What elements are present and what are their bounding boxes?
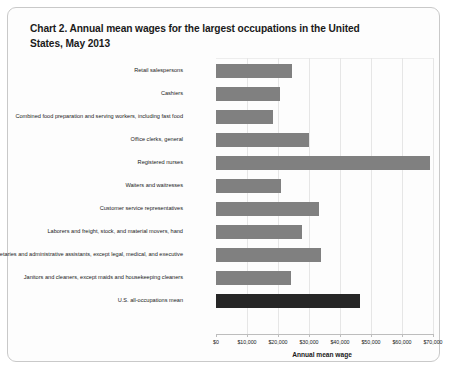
x-axis-tick xyxy=(371,334,372,337)
category-label: Waiters and waitresses xyxy=(0,182,183,190)
bar-row: Secretaries and administrative assistant… xyxy=(211,244,433,267)
bar xyxy=(216,87,280,101)
bar-row: Combined food preparation and serving wo… xyxy=(211,106,433,129)
category-label: Office clerks, general xyxy=(0,136,183,144)
x-axis-title: Annual mean wage xyxy=(211,351,433,358)
plot-area: Retail salespersonsCashiersCombined food… xyxy=(211,51,433,341)
category-label: U.S. all-occupations mean xyxy=(0,297,183,305)
category-label: Combined food preparation and serving wo… xyxy=(0,113,183,121)
bar xyxy=(216,133,309,147)
bar xyxy=(216,64,292,78)
bar-row: Cashiers xyxy=(211,83,433,106)
bar-row: Waiters and waitresses xyxy=(211,175,433,198)
x-axis-tick xyxy=(216,334,217,337)
bar-row: Customer service representatives xyxy=(211,198,433,221)
bar-row: Retail salespersons xyxy=(211,60,433,83)
chart-title: Chart 2. Annual mean wages for the large… xyxy=(30,22,360,51)
category-label: Registered nurses xyxy=(0,159,183,167)
chart-card: Chart 2. Annual mean wages for the large… xyxy=(7,7,440,362)
x-axis-tick xyxy=(402,334,403,337)
bar xyxy=(216,248,321,262)
bar xyxy=(216,156,430,170)
category-label: Janitors and cleaners, except maids and … xyxy=(0,274,183,282)
category-label: Cashiers xyxy=(0,90,183,98)
category-label: Laborers and freight, stock, and materia… xyxy=(0,228,183,236)
bar xyxy=(216,271,291,285)
bar xyxy=(216,202,319,216)
category-label: Retail salespersons xyxy=(0,67,183,75)
bar xyxy=(216,294,360,308)
x-axis-tick-label: $70,000 xyxy=(413,339,451,345)
bar-row: Janitors and cleaners, except maids and … xyxy=(211,267,433,290)
x-axis-tick xyxy=(247,334,248,337)
x-axis-tick xyxy=(433,334,434,337)
plot-inner: Retail salespersonsCashiersCombined food… xyxy=(211,51,433,341)
x-axis-tick xyxy=(340,334,341,337)
bar xyxy=(216,225,302,239)
bar-row: Office clerks, general xyxy=(211,129,433,152)
bar xyxy=(216,179,281,193)
x-axis-tick xyxy=(309,334,310,337)
x-axis-line xyxy=(216,334,433,335)
category-label: Secretaries and administrative assistant… xyxy=(0,251,183,259)
bar-row: U.S. all-occupations mean xyxy=(211,290,433,313)
bar-row: Registered nurses xyxy=(211,152,433,175)
gridline xyxy=(433,58,434,334)
bar-row: Laborers and freight, stock, and materia… xyxy=(211,221,433,244)
category-label: Customer service representatives xyxy=(0,205,183,213)
x-axis-tick xyxy=(278,334,279,337)
plot-top-border xyxy=(216,58,433,59)
bar xyxy=(216,110,273,124)
